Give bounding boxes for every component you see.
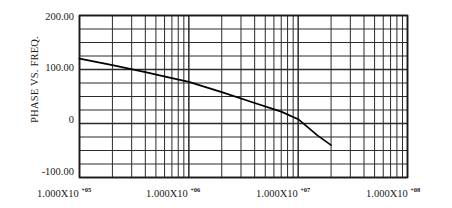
y-axis-title: PHASE VS. FREQ. [29,10,40,150]
x-tick-exponent: +06 [190,186,200,193]
phase-vs-frequency-chart: PHASE VS. FREQ. 200.00 100.00 0 -100.00 … [0,0,452,208]
y-tick-label-100: 100.00 [18,62,74,73]
y-tick-label-200: 200.00 [18,11,74,22]
x-tick-exponent: +08 [410,186,420,193]
x-tick-label-1e6: 1.000X10+06 [146,186,200,199]
y-tick-label-minus-100: -100.00 [14,166,74,177]
x-tick-mantissa: 1.000X10 [256,188,298,199]
x-tick-mantissa: 1.000X10 [366,188,408,199]
x-tick-exponent: +05 [81,186,91,193]
horizontal-gridlines [80,16,408,178]
x-tick-label-1e5: 1.000X10+05 [37,186,91,199]
x-tick-exponent: +07 [300,186,310,193]
x-tick-mantissa: 1.000X10 [37,188,79,199]
x-tick-label-1e7: 1.000X10+07 [256,186,310,199]
x-tick-label-1e8: 1.000X10+08 [366,186,420,199]
x-tick-mantissa: 1.000X10 [146,188,188,199]
y-tick-label-0: 0 [18,114,74,125]
